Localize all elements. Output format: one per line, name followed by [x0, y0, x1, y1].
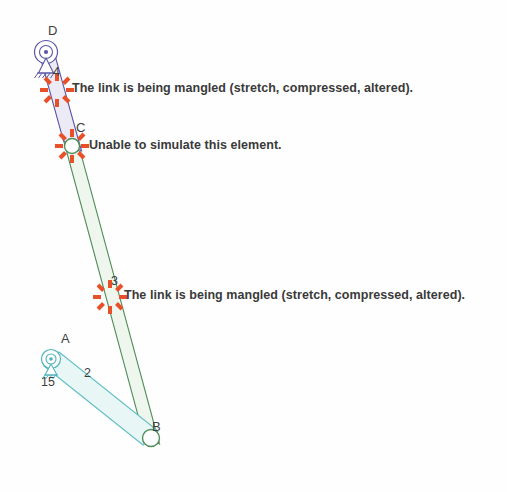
joint-A-center-dot — [49, 357, 53, 361]
joint-label-C: C — [76, 121, 85, 134]
joint-label-A: A — [61, 332, 70, 345]
joint-D-center-dot — [44, 50, 48, 54]
link-label-2: 2 — [84, 367, 91, 380]
joint-C[interactable] — [65, 139, 80, 154]
joint-C-ring[interactable] — [65, 139, 80, 154]
error-message-joint-c: Unable to simulate this element. — [89, 139, 282, 152]
link-label-4: 4 — [53, 66, 60, 79]
link-label-3: 3 — [111, 275, 118, 288]
error-message-link-4: The link is being mangled (stretch, comp… — [72, 82, 413, 95]
dimension-angle-15: 15 — [41, 376, 55, 389]
mechanism-canvas[interactable]: D C A B 2 3 4 15 The link is being mangl… — [0, 0, 507, 492]
joint-label-D: D — [48, 24, 57, 37]
error-message-link-3: The link is being mangled (stretch, comp… — [124, 289, 465, 302]
joint-label-B: B — [152, 420, 161, 433]
mechanism-drawing[interactable] — [0, 0, 507, 492]
